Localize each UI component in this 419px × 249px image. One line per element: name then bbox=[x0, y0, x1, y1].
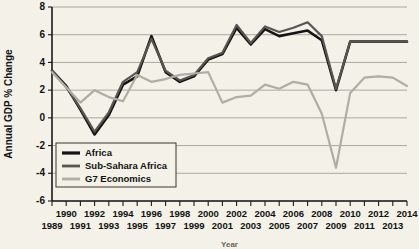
y-tick-label-2: 2 bbox=[39, 84, 45, 95]
x-tick-label-2008: 2008 bbox=[311, 208, 332, 219]
y-tick-label-6: 6 bbox=[39, 29, 45, 40]
y-tick-label-0: 0 bbox=[39, 112, 45, 123]
x-tick-label-2014: 2014 bbox=[396, 208, 418, 219]
chart-canvas: -6-4-202468Annual GDP % Change1989199019… bbox=[0, 0, 419, 249]
x-tick-label-2004: 2004 bbox=[254, 208, 276, 219]
x-tick-label-1992: 1992 bbox=[84, 208, 105, 219]
x-tick-label-1997: 1997 bbox=[155, 220, 176, 231]
x-tick-label-2013: 2013 bbox=[382, 220, 403, 231]
x-axis-title: Year bbox=[221, 240, 238, 249]
x-tick-label-1999: 1999 bbox=[183, 220, 204, 231]
y-tick-label--6: -6 bbox=[36, 195, 45, 206]
y-tick-label--4: -4 bbox=[36, 167, 45, 178]
legend-label-0: Africa bbox=[85, 147, 113, 158]
x-tick-label-1991: 1991 bbox=[70, 220, 92, 231]
x-tick-label-1993: 1993 bbox=[98, 220, 119, 231]
x-tick-label-1998: 1998 bbox=[169, 208, 190, 219]
x-tick-label-1990: 1990 bbox=[56, 208, 77, 219]
x-tick-label-1995: 1995 bbox=[127, 220, 149, 231]
x-tick-label-2000: 2000 bbox=[198, 208, 219, 219]
x-tick-label-2003: 2003 bbox=[240, 220, 261, 231]
x-tick-label-2002: 2002 bbox=[226, 208, 247, 219]
y-tick-label-4: 4 bbox=[39, 57, 45, 68]
x-tick-label-1996: 1996 bbox=[141, 208, 162, 219]
x-tick-label-2012: 2012 bbox=[368, 208, 389, 219]
x-tick-label-2010: 2010 bbox=[340, 208, 361, 219]
x-tick-label-2001: 2001 bbox=[212, 220, 234, 231]
gdp-change-line-chart: -6-4-202468Annual GDP % Change1989199019… bbox=[0, 0, 419, 249]
x-tick-label-1989: 1989 bbox=[41, 220, 62, 231]
y-tick-label-8: 8 bbox=[39, 1, 45, 12]
y-tick-label--2: -2 bbox=[36, 140, 45, 151]
x-tick-label-2005: 2005 bbox=[269, 220, 291, 231]
x-tick-label-2011: 2011 bbox=[354, 220, 375, 231]
y-axis-title: Annual GDP % Change bbox=[3, 49, 14, 159]
x-tick-label-1994: 1994 bbox=[112, 208, 134, 219]
legend-label-2: G7 Economics bbox=[85, 173, 151, 184]
x-tick-label-2007: 2007 bbox=[297, 220, 318, 231]
x-tick-label-2006: 2006 bbox=[283, 208, 304, 219]
x-tick-label-2009: 2009 bbox=[325, 220, 346, 231]
legend-label-1: Sub-Sahara Africa bbox=[85, 160, 168, 171]
